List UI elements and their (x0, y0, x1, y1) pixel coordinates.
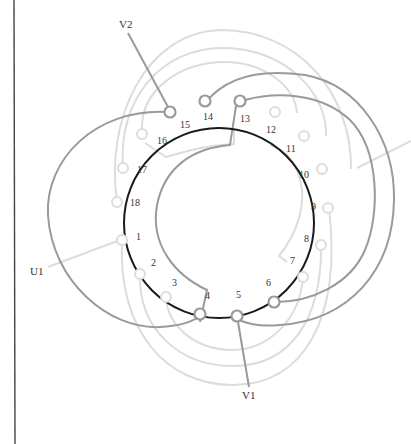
slot-label-6: 6 (266, 277, 271, 288)
slot-numbers: 1 2 3 4 5 6 7 8 9 10 11 12 13 14 15 16 1… (130, 111, 316, 301)
v-inner-arc (156, 106, 236, 322)
slot-label-14: 14 (203, 111, 213, 122)
slot-label-4: 4 (205, 290, 210, 301)
slot-label-13: 13 (240, 113, 250, 124)
terminal-12 (270, 107, 280, 117)
slot-label-15: 15 (180, 119, 190, 130)
terminal-17 (118, 163, 128, 173)
slot-label-2: 2 (151, 257, 156, 268)
terminal-18 (112, 197, 122, 207)
terminal-10 (317, 164, 327, 174)
terminal-9 (323, 203, 333, 213)
light-terminals (112, 107, 333, 302)
terminal-11 (299, 131, 309, 141)
slot-label-8: 8 (304, 233, 309, 244)
terminal-3 (161, 292, 171, 302)
slot-label-7: 7 (290, 255, 295, 266)
slot-label-16: 16 (157, 135, 167, 146)
terminal-1 (117, 235, 127, 245)
slot-label-3: 3 (172, 277, 177, 288)
slot-label-9: 9 (311, 201, 316, 212)
slot-label-10: 10 (299, 169, 309, 180)
slot-label-5: 5 (236, 289, 241, 300)
slot-label-17: 17 (137, 164, 147, 175)
terminal-8 (316, 240, 326, 250)
slot-label-12: 12 (266, 124, 276, 135)
slot-label-18: 18 (130, 197, 140, 208)
slot-label-1: 1 (136, 231, 141, 242)
v1-lead-line (238, 322, 249, 387)
u1-lead-line (48, 240, 120, 267)
terminal-15 (165, 107, 176, 118)
slot-label-11: 11 (286, 143, 296, 154)
inner-arc-7 (270, 145, 302, 262)
winding-diagram: 1 2 3 4 5 6 7 8 9 10 11 12 13 14 15 16 1… (0, 0, 411, 444)
lead-label-v1: V1 (242, 389, 255, 401)
terminal-2 (135, 269, 145, 279)
terminal-13 (235, 96, 246, 107)
coil-arc-18-10 (115, 30, 351, 201)
stator-ring (124, 128, 314, 318)
lead-label-u1: U1 (30, 265, 43, 277)
terminal-4 (195, 309, 206, 320)
terminal-16 (137, 129, 147, 139)
terminal-5 (232, 311, 243, 322)
lead-label-v2: V2 (119, 18, 132, 30)
left-border-line (14, 0, 15, 444)
v2-lead-line (128, 33, 168, 107)
v-phase-winding (48, 33, 394, 387)
terminal-14 (200, 96, 211, 107)
terminal-6 (269, 297, 280, 308)
v-coil-14-5 (206, 73, 394, 326)
terminal-7 (298, 272, 308, 282)
